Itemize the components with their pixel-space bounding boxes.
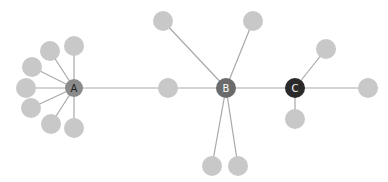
- leaf-node-a5: [21, 98, 41, 118]
- edge-B-b4: [226, 88, 238, 166]
- leaf-node-b3: [202, 156, 222, 176]
- leaf-node-a6: [41, 114, 61, 134]
- leaf-node-m1: [158, 78, 178, 98]
- leaf-node-a7: [64, 118, 84, 138]
- leaf-node-a3: [22, 57, 42, 77]
- edge-B-b2: [226, 21, 253, 88]
- hub-node-c: C: [285, 78, 305, 98]
- leaf-node-a2: [40, 41, 60, 61]
- leaf-node-c1: [316, 39, 336, 59]
- leaf-node-b2: [243, 11, 263, 31]
- hub-label: C: [292, 83, 299, 94]
- edge-B-b3: [212, 88, 226, 166]
- hub-label: A: [71, 83, 78, 94]
- leaf-node-a1: [64, 36, 84, 56]
- leaf-node-c2: [358, 78, 378, 98]
- hub-node-a: A: [65, 79, 83, 97]
- network-diagram: ABC: [0, 0, 388, 182]
- leaf-node-b1: [153, 11, 173, 31]
- leaf-node-b4: [228, 156, 248, 176]
- edge-B-b1: [163, 21, 226, 88]
- hub-label: B: [223, 83, 230, 94]
- hub-node-b: B: [216, 78, 236, 98]
- leaf-node-c3: [285, 109, 305, 129]
- leaf-node-a4: [16, 78, 36, 98]
